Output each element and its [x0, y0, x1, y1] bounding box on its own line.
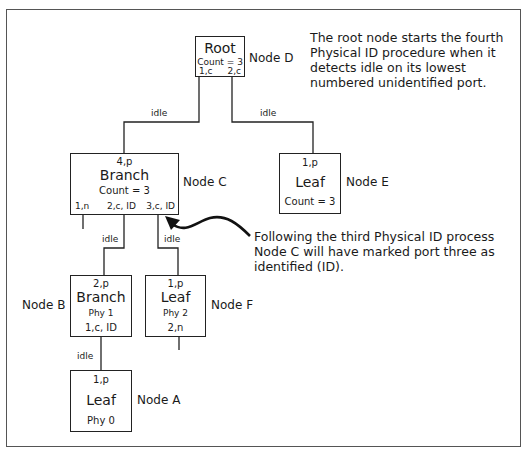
- node-port-status: 1,p: [280, 158, 340, 168]
- node-count: Count = 3: [71, 186, 178, 196]
- edge-label-b-a: idle: [77, 352, 93, 361]
- node-type: Branch: [71, 168, 178, 182]
- node-c-label: Node C: [183, 176, 227, 188]
- node-e-label: Node E: [346, 176, 389, 188]
- node-phy: Phy 2: [146, 309, 205, 318]
- edge-label-c-f: idle: [164, 235, 180, 244]
- node-port-status: 4,p: [71, 157, 178, 167]
- port-2: 2,n: [146, 323, 205, 333]
- node-b-branch: 2,p Branch Phy 1 1,c, ID: [70, 275, 132, 337]
- port-2: 2,c: [227, 67, 241, 76]
- node-e-leaf: 1,p Leaf Count = 3: [279, 153, 341, 214]
- node-port-status: 1,p: [146, 279, 205, 289]
- node-f-leaf: 1,p Leaf Phy 2 2,n: [145, 275, 206, 337]
- node-c-branch: 4,p Branch Count = 3 1,n 2,c, ID 3,c, ID: [70, 153, 179, 215]
- port-1: 1,n: [75, 202, 89, 211]
- port-3: 3,c, ID: [146, 202, 175, 211]
- edge-label-c-b: idle: [102, 235, 118, 244]
- node-a-label: Node A: [137, 394, 180, 406]
- node-a-leaf: 1,p Leaf Phy 0: [70, 370, 132, 432]
- node-d-root: Root Count = 3 1,c 2,c: [195, 36, 245, 77]
- root-note: The root node starts the fourth Physical…: [310, 30, 515, 90]
- pointer-arrow: [165, 216, 250, 236]
- port-1: 1,c, ID: [71, 323, 131, 333]
- edge-label-root-c: idle: [151, 109, 167, 118]
- node-port-status: 1,p: [71, 375, 131, 385]
- node-phy: Phy 1: [71, 309, 131, 318]
- node-port-status: 2,p: [71, 279, 131, 289]
- node-type: Leaf: [146, 290, 205, 304]
- node-d-label: Node D: [249, 52, 293, 64]
- node-type: Leaf: [280, 175, 340, 189]
- node-phy: Phy 0: [71, 416, 131, 426]
- node-f-label: Node F: [211, 299, 253, 311]
- node-type: Branch: [71, 290, 131, 304]
- node-type: Leaf: [71, 393, 131, 407]
- port-1: 1,c: [199, 67, 213, 76]
- node-b-label: Node B: [22, 299, 65, 311]
- port-2: 2,c, ID: [107, 202, 136, 211]
- node-c-note: Following the third Physical ID process …: [254, 229, 519, 274]
- node-type: Root: [196, 41, 244, 55]
- node-count: Count = 3: [280, 197, 340, 207]
- edge-label-root-e: idle: [260, 109, 276, 118]
